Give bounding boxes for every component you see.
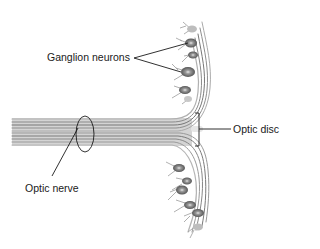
optic-disc-label: Optic disc	[233, 123, 279, 135]
upper-ganglion-neurons	[172, 22, 198, 104]
ganglion-neurons-label: Ganglion neurons	[47, 51, 130, 63]
optic-nerve-label: Optic nerve	[25, 182, 79, 194]
ganglion-leader-lower	[134, 58, 181, 72]
ganglion-leader-upper	[134, 43, 188, 58]
